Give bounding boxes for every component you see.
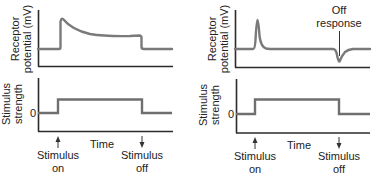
left-stimulus-on-label-line1: Stimulus — [37, 149, 80, 161]
left-stimulus-trace — [38, 100, 172, 114]
left-time-label: Time — [90, 138, 114, 150]
right-time-label: Time — [287, 139, 311, 151]
right-stimulus-off-label-line2: off — [333, 163, 346, 175]
left-stimulus-off-label-line2: off — [136, 162, 149, 174]
left-stimulus-off-arrow-icon — [140, 136, 145, 148]
right-bottom-ylabel-line2: strength — [209, 85, 221, 125]
right-stimulus-on-label-line1: Stimulus — [234, 150, 277, 162]
receptor-adaptation-diagram: Receptor potential (mV) Stimulus strengt… — [0, 0, 374, 183]
right-zero-tick: 0 — [228, 108, 234, 120]
left-top-ylabel-line1: Receptor — [9, 16, 21, 61]
right-stimulus-on-label-line2: on — [249, 163, 261, 175]
left-stimulus-on-arrow-icon — [56, 136, 61, 148]
right-stimulus-on-arrow-icon — [253, 137, 258, 149]
off-response-label-line1: Off — [332, 4, 347, 16]
off-response-label-line2: response — [316, 17, 361, 29]
right-top-ylabel-line1: Receptor — [206, 16, 218, 61]
right-stimulus-off-label-line1: Stimulus — [318, 150, 361, 162]
left-stimulus-off-label-line1: Stimulus — [121, 149, 164, 161]
right-panel: Receptor potential (mV) Off response Sti… — [197, 4, 370, 175]
left-panel: Receptor potential (mV) Stimulus strengt… — [0, 5, 173, 174]
left-zero-tick: 0 — [30, 107, 36, 119]
right-stimulus-trace — [236, 100, 370, 115]
left-top-axes — [38, 10, 173, 67]
left-receptor-potential-trace — [38, 19, 172, 49]
right-top-ylabel-line2: potential (mV) — [218, 5, 230, 73]
left-bottom-ylabel-line1: Stimulus — [0, 82, 12, 125]
left-stimulus-on-label-line2: on — [52, 162, 64, 174]
left-bottom-ylabel-line2: strength — [12, 84, 24, 124]
right-stimulus-off-arrow-icon — [337, 137, 342, 149]
left-top-ylabel-line2: potential (mV) — [21, 5, 33, 73]
right-bottom-ylabel-line1: Stimulus — [197, 83, 209, 126]
